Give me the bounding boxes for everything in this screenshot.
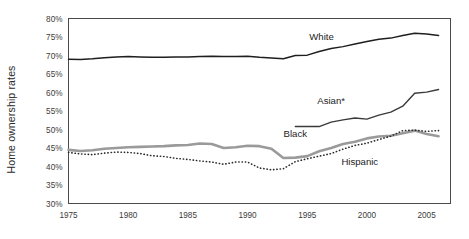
- y-tick-label: 75%: [46, 33, 62, 42]
- x-tick-label: 1980: [119, 211, 138, 220]
- series-label-asian: Asian*: [317, 95, 345, 106]
- y-tick-label: 55%: [46, 107, 62, 116]
- y-tick-label: 35%: [46, 181, 62, 190]
- y-tick-label: 60%: [46, 89, 62, 98]
- x-tick-label: 2000: [358, 211, 377, 220]
- y-tick-label: 50%: [46, 126, 62, 135]
- series-label-hispanic: Hispanic: [341, 156, 378, 167]
- x-tick-label: 1990: [238, 211, 257, 220]
- chart-svg: 30%35%40%45%50%55%60%65%70%75%80% 197519…: [0, 0, 469, 239]
- x-tick-label: 1975: [59, 211, 78, 220]
- y-tick-label: 70%: [46, 52, 62, 61]
- series-label-black: Black: [284, 128, 308, 139]
- x-tick-label: 2005: [418, 211, 437, 220]
- y-tick-label: 65%: [46, 70, 62, 79]
- series-line-white: [69, 33, 439, 59]
- series-line-black: [69, 131, 439, 158]
- plot-wrapper: 30%35%40%45%50%55%60%65%70%75%80% 197519…: [0, 0, 469, 239]
- y-tick-label: 80%: [46, 15, 62, 24]
- series-lines: [69, 33, 439, 170]
- x-tick-label: 1995: [298, 211, 317, 220]
- y-tick-label: 45%: [46, 144, 62, 153]
- y-tick-label: 30%: [46, 200, 62, 209]
- home-ownership-chart: Home ownership rates 30%35%40%45%50%55%6…: [0, 0, 469, 239]
- x-tick-labels: 1975198019851990199520002005: [59, 211, 436, 220]
- series-label-white: White: [309, 31, 334, 42]
- series-annotations: WhiteAsian*BlackHispanic: [284, 31, 379, 167]
- y-tick-labels: 30%35%40%45%50%55%60%65%70%75%80%: [46, 15, 62, 209]
- y-tick-label: 40%: [46, 163, 62, 172]
- x-tick-label: 1985: [179, 211, 198, 220]
